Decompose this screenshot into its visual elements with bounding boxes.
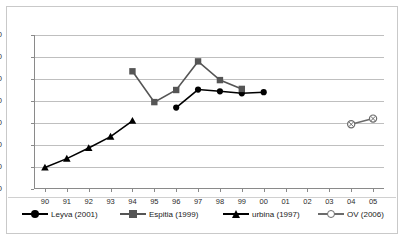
x-tick-mark [329,189,330,192]
x-tick-mark [242,189,243,192]
x-tick-mark [373,189,374,192]
legend-item-urbina-1997[interactable]: urbina (1997) [223,207,300,221]
y-tick-label: 30 [0,119,2,127]
data-point-circle [195,86,201,92]
legend-label: urbina (1997) [252,210,300,219]
legend-marker-triangle-icon [232,210,240,218]
legend-swatch-circled-x-icon [318,208,344,220]
data-point-square [195,58,201,64]
series-line [45,121,133,168]
data-point-square [217,77,223,83]
chart-frame: 010203040506070 909192939495969798990001… [6,6,398,234]
data-point-circle [217,88,223,94]
plot-area: 010203040506070 909192939495969798990001… [34,35,384,189]
legend-swatch-triangle-icon [223,208,249,220]
series-line [132,61,241,102]
data-point-circled-x [348,121,355,128]
x-tick-mark [220,189,221,192]
data-point-circle [261,89,267,95]
y-tick-label: 40 [0,97,2,105]
series-urbina-1997 [41,117,136,170]
x-tick-mark [176,189,177,192]
x-tick-mark [132,189,133,192]
legend-swatch-square-icon [120,208,146,220]
x-tick-mark [67,189,68,192]
legend-swatch-circle-icon [22,208,48,220]
series-plot [34,35,384,189]
y-tick-label: 60 [0,53,2,61]
legend-item-leyva-2001[interactable]: Leyva (2001) [22,207,98,221]
series-leyva-2001 [173,86,267,110]
x-tick-mark [264,189,265,192]
data-point-circle [173,105,179,111]
x-tick-mark [111,189,112,192]
y-tick-label: 20 [0,141,2,149]
y-tick-label: 0 [0,185,2,193]
data-point-square [129,68,135,74]
chart-legend: Leyva (2001)Espitia (1999)urbina (1997)O… [8,197,396,234]
legend-label: Espitia (1999) [149,210,198,219]
data-point-triangle [85,144,93,151]
x-tick-mark [154,189,155,192]
x-tick-mark [198,189,199,192]
legend-item-espitia-1999[interactable]: Espitia (1999) [120,207,198,221]
x-tick-mark [351,189,352,192]
x-tick-mark [307,189,308,192]
x-tick-mark [45,189,46,192]
legend-marker-circled-x-icon [327,210,335,218]
legend-item-ov-2006[interactable]: OV (2006) [318,207,384,221]
legend-label: OV (2006) [347,210,384,219]
x-tick-mark [89,189,90,192]
data-point-circled-x [369,115,376,122]
legend-marker-square-icon [129,210,137,218]
data-point-triangle [129,117,137,124]
y-tick-mark [31,189,34,190]
legend-label: Leyva (2001) [51,210,98,219]
x-tick-mark [286,189,287,192]
data-point-square [173,87,179,93]
data-point-square [151,99,157,105]
y-tick-label: 50 [0,75,2,83]
legend-marker-circle-icon [31,210,39,218]
y-tick-label: 70 [0,31,2,39]
data-point-square [239,86,245,92]
series-ov-2006 [348,115,377,128]
y-tick-label: 10 [0,163,2,171]
